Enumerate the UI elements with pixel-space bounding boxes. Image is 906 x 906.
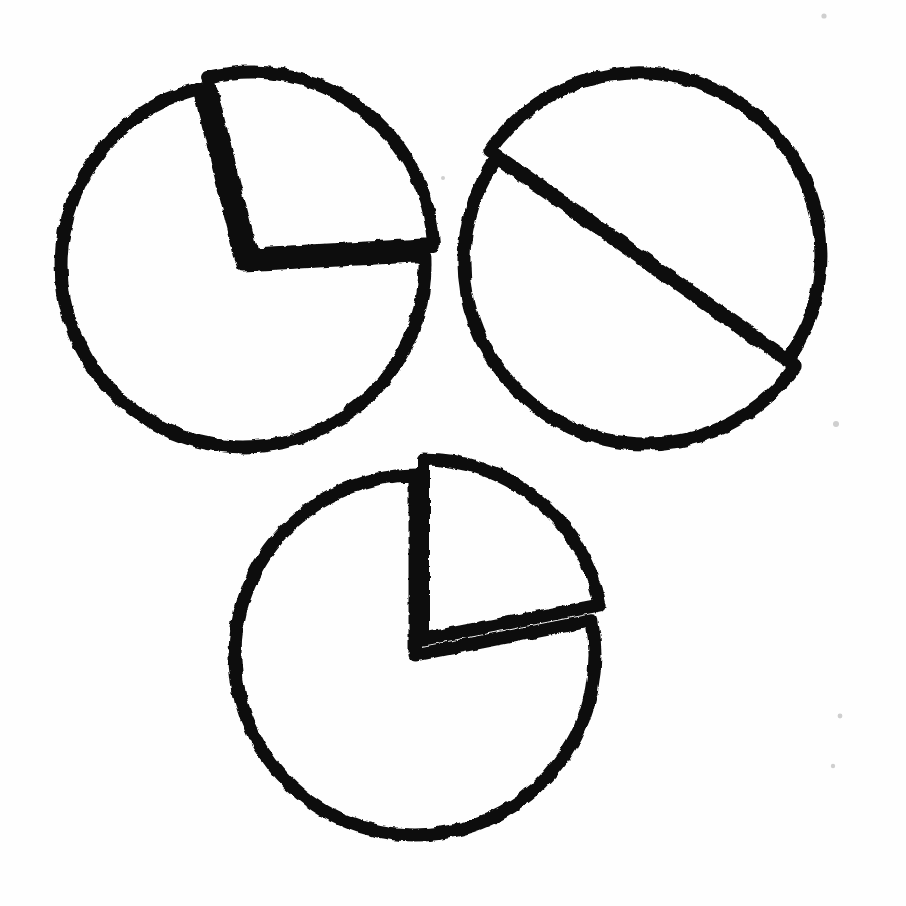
figure-canvas (0, 0, 906, 906)
pie2-upper-slice-outline[interactable] (490, 73, 821, 359)
pie-chart-bottom[interactable] (235, 459, 600, 835)
pie2-lower-slice-outline (464, 158, 795, 444)
pie1-exploded-slice-outline[interactable] (208, 72, 434, 254)
pie-chart-top-right[interactable] (464, 73, 821, 444)
pie3-major-slice-outline (235, 475, 595, 835)
paper-speck (441, 176, 445, 180)
paper-speck (831, 764, 835, 768)
pie-charts-svg (0, 0, 906, 906)
paper-speck (821, 13, 826, 18)
pie3-exploded-slice-outline[interactable] (424, 459, 601, 639)
paper-speck (838, 714, 843, 719)
paper-speck (833, 421, 839, 427)
pie-chart-top-left[interactable] (61, 72, 433, 447)
pie1-major-slice-outline (61, 88, 425, 447)
